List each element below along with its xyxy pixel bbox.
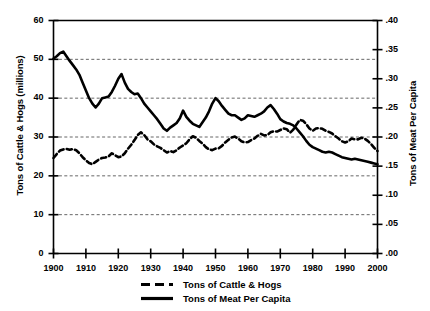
y-axis-left-tick-label: 50 bbox=[14, 53, 44, 63]
y-axis-left-title: Tons of Cattle & Hogs (millions) bbox=[14, 46, 25, 206]
y-axis-left-tick-label: 10 bbox=[14, 209, 44, 219]
y-axis-right-tick-label: .05 bbox=[386, 218, 416, 228]
series-line bbox=[54, 52, 378, 165]
y-axis-right-tick-label: .15 bbox=[386, 160, 416, 170]
series-line bbox=[54, 120, 378, 164]
x-axis-tick-label: 2000 bbox=[358, 263, 398, 273]
y-axis-right-tick-label: .35 bbox=[386, 44, 416, 54]
y-axis-right-tick-label: .40 bbox=[386, 15, 416, 25]
gridlines bbox=[54, 59, 378, 214]
y-axis-right-tick-label: .00 bbox=[386, 248, 416, 258]
y-axis-left-tick-label: 40 bbox=[14, 92, 44, 102]
y-axis-left-tick-label: 20 bbox=[14, 170, 44, 180]
legend-solid-swatch-icon bbox=[140, 293, 174, 304]
y-axis-left-tick-label: 0 bbox=[14, 248, 44, 258]
legend-item-meat-per-capita: Tons of Meat Per Capita bbox=[140, 291, 291, 305]
legend-item-cattle-hogs: Tons of Cattle & Hogs bbox=[140, 277, 291, 291]
legend-dashed-swatch-icon bbox=[140, 279, 174, 290]
chart-legend: Tons of Cattle & Hogs Tons of Meat Per C… bbox=[140, 277, 291, 305]
legend-label-cattle-hogs: Tons of Cattle & Hogs bbox=[183, 279, 282, 290]
y-axis-right-tick-label: .25 bbox=[386, 102, 416, 112]
tick-marks bbox=[49, 21, 383, 259]
y-axis-left-tick-label: 30 bbox=[14, 131, 44, 141]
legend-label-meat-per-capita: Tons of Meat Per Capita bbox=[183, 293, 291, 304]
y-axis-left-tick-label: 60 bbox=[14, 15, 44, 25]
data-series-layer bbox=[54, 52, 378, 165]
y-axis-right-tick-label: .10 bbox=[386, 189, 416, 199]
y-axis-right-tick-label: .30 bbox=[386, 73, 416, 83]
chart-container: Tons of Cattle & Hogs (millions) Tons of… bbox=[0, 0, 430, 311]
y-axis-right-tick-label: .20 bbox=[386, 131, 416, 141]
